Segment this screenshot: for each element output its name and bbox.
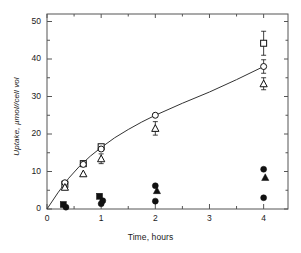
uptake-vs-time-chart: Uptake, µmol//cell vol Time, hours 01020…	[0, 0, 301, 253]
plot-frame	[47, 14, 288, 209]
marker-filled-circle	[261, 195, 267, 201]
marker-open-circle	[152, 112, 158, 118]
marker-filled-circle	[152, 198, 158, 204]
marker-filled-circle	[261, 166, 267, 172]
marker-filled-circle	[152, 183, 158, 189]
marker-filled-circle	[98, 201, 104, 207]
marker-open-circle	[261, 64, 267, 70]
marker-filled-triangle	[262, 174, 269, 181]
y-tick-label: 10	[32, 166, 41, 176]
marker-open-square	[261, 40, 267, 46]
x-tick-label: 1	[91, 213, 111, 223]
marker-open-circle	[98, 146, 104, 152]
y-axis-label: Uptake, µmol//cell vol	[12, 57, 21, 177]
marker-open-triangle	[152, 125, 159, 132]
x-tick-label: 0	[37, 213, 57, 223]
marker-open-triangle	[98, 155, 105, 162]
marker-open-triangle	[80, 170, 87, 177]
x-tick-label: 3	[199, 213, 219, 223]
marker-open-triangle	[260, 80, 267, 87]
y-tick-label: 0	[36, 203, 41, 213]
y-tick-label: 30	[32, 91, 41, 101]
y-tick-label: 40	[32, 53, 41, 63]
x-axis-label: Time, hours	[0, 232, 301, 242]
x-tick-label: 4	[254, 213, 274, 223]
y-tick-label: 20	[32, 128, 41, 138]
x-tick-label: 2	[145, 213, 165, 223]
marker-filled-circle	[63, 204, 69, 210]
y-tick-label: 50	[32, 16, 41, 26]
marker-open-circle	[80, 161, 86, 167]
